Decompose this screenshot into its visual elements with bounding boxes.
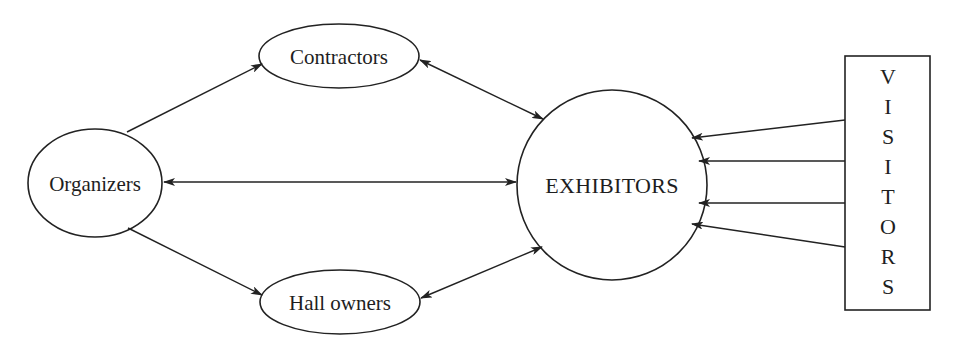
contractors-label: Contractors (290, 47, 388, 68)
visitors-letter: R (881, 246, 896, 268)
diagram-shapes (0, 0, 954, 344)
visitors-label: V I S I T O R S (845, 58, 931, 308)
exhibitors-label: EXHIBITORS (545, 175, 678, 197)
visitors-letter: I (884, 156, 891, 178)
visitors-letter: S (882, 276, 894, 298)
visitors-letter: V (880, 66, 896, 88)
visitors-letter: T (881, 186, 894, 208)
organizers-label: Organizers (49, 174, 141, 195)
visitors-letter: S (882, 126, 894, 148)
arrow-visitors-exhibitors-4 (692, 224, 845, 247)
arrow-contractors-exhibitors (420, 60, 543, 119)
visitors-letter: O (880, 216, 896, 238)
diagram-canvas: Organizers Contractors Hall owners EXHIB… (0, 0, 954, 344)
arrow-organizers-hall-owners (128, 228, 262, 295)
visitors-letter: I (884, 96, 891, 118)
arrow-organizers-contractors (127, 64, 262, 132)
hall-owners-label: Hall owners (289, 293, 391, 314)
arrow-hall-owners-exhibitors (421, 247, 542, 298)
arrow-visitors-exhibitors-1 (692, 120, 845, 138)
